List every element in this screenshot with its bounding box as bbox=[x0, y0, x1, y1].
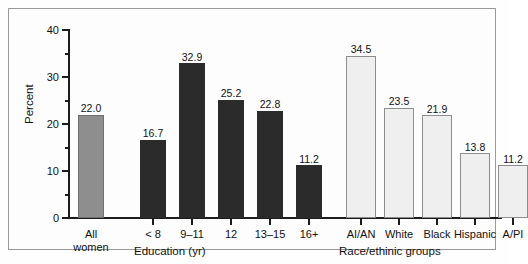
bar-value-label: 11.2 bbox=[503, 154, 523, 165]
x-axis-tick bbox=[398, 218, 400, 225]
x-axis-category-label: Black bbox=[424, 228, 451, 241]
x-axis-category-label: Allwomen bbox=[68, 228, 114, 253]
bar-value-label: 21.9 bbox=[427, 104, 447, 115]
bar-value-label: 32.9 bbox=[182, 52, 202, 63]
bar-value-label: 34.5 bbox=[351, 44, 371, 55]
plot-area: 01020304022.0Allwomen16.7< 832.99–1125.2… bbox=[69, 30, 501, 218]
x-axis-tick bbox=[474, 218, 476, 225]
bar-a-pi: 11.2 bbox=[498, 165, 528, 218]
bar-value-label: 22.0 bbox=[81, 103, 101, 114]
bar-hispanic: 13.8 bbox=[460, 153, 490, 218]
x-axis-tick bbox=[436, 218, 438, 225]
y-axis-minor-tick bbox=[65, 53, 69, 55]
bar-12: 25.2 bbox=[218, 100, 244, 218]
bar-value-label: 16.7 bbox=[143, 128, 163, 139]
x-axis-category-label: AI/AN bbox=[347, 228, 376, 241]
y-axis-tick bbox=[62, 29, 69, 31]
bar-8: 16.7 bbox=[140, 140, 166, 218]
bar-16: 11.2 bbox=[296, 165, 322, 218]
y-axis-label: Percent bbox=[23, 84, 35, 124]
y-axis-tick bbox=[62, 123, 69, 125]
x-axis-tick bbox=[191, 218, 193, 225]
bar-value-label: 25.2 bbox=[221, 88, 241, 99]
x-axis-tick bbox=[152, 218, 154, 225]
x-axis-tick bbox=[360, 218, 362, 225]
y-axis-tick-label: 20 bbox=[47, 119, 59, 130]
y-axis-tick bbox=[62, 76, 69, 78]
bar-all-women: 22.0 bbox=[78, 115, 104, 218]
x-axis-tick bbox=[512, 218, 514, 225]
x-axis-tick bbox=[308, 218, 310, 225]
bar-ai-an: 34.5 bbox=[346, 56, 376, 218]
x-axis-category-label: 12 bbox=[225, 228, 237, 241]
group-label-race: Race/ethinic groups bbox=[339, 245, 441, 257]
y-axis-tick-label: 10 bbox=[47, 166, 59, 177]
bar-value-label: 11.2 bbox=[299, 154, 319, 165]
bar-13-15: 22.8 bbox=[257, 111, 283, 218]
bar-9-11: 32.9 bbox=[179, 63, 205, 218]
x-axis-category-label: Hispanic bbox=[454, 228, 496, 241]
bar-value-label: 23.5 bbox=[389, 96, 409, 107]
y-axis-minor-tick bbox=[65, 100, 69, 102]
y-axis-tick bbox=[62, 170, 69, 172]
x-axis-category-label: < 8 bbox=[145, 228, 161, 241]
bar-value-label: 13.8 bbox=[465, 142, 485, 153]
x-axis-category-label: A/PI bbox=[503, 228, 524, 241]
x-axis-category-label: 13–15 bbox=[255, 228, 286, 241]
y-axis-tick-label: 0 bbox=[53, 213, 59, 224]
x-axis-tick bbox=[230, 218, 232, 225]
x-axis-category-label: 9–11 bbox=[180, 228, 204, 241]
x-axis-category-label: White bbox=[385, 228, 413, 241]
x-axis-category-label: 16+ bbox=[300, 228, 319, 241]
y-axis-tick bbox=[62, 217, 69, 219]
bar-value-label: 22.8 bbox=[260, 99, 280, 110]
group-label-education: Education (yr) bbox=[134, 245, 206, 257]
bar-white: 23.5 bbox=[384, 108, 414, 218]
figure-frame: Percent 01020304022.0Allwomen16.7< 832.9… bbox=[8, 8, 496, 250]
y-axis-minor-tick bbox=[65, 147, 69, 149]
bar-black: 21.9 bbox=[422, 115, 452, 218]
y-axis-tick-label: 40 bbox=[47, 25, 59, 36]
y-axis-tick-label: 30 bbox=[47, 72, 59, 83]
x-axis-tick bbox=[269, 218, 271, 225]
y-axis-minor-tick bbox=[65, 194, 69, 196]
